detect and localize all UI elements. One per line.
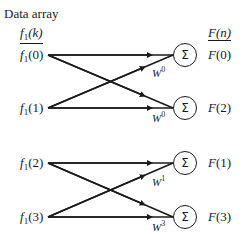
weight-base: W [152, 67, 161, 79]
output-base: F [208, 209, 216, 224]
weight-exp: 0 [161, 65, 165, 74]
output-arg: (2) [216, 100, 231, 115]
weight-label-3: W1 [152, 175, 165, 188]
output-base: F [208, 47, 216, 62]
output-F3: F(3) [208, 210, 231, 223]
butterfly-lines [0, 0, 242, 236]
sigma-icon: Σ [181, 101, 189, 115]
weight-exp: 0 [161, 110, 165, 119]
output-F2: F(2) [208, 101, 231, 114]
sum-node-F1: Σ [173, 151, 197, 175]
sigma-icon: Σ [181, 48, 189, 62]
weight-exp: 3 [161, 219, 165, 228]
output-base: F [208, 100, 216, 115]
output-F1: F(1) [208, 156, 231, 169]
weight-label-2: W0 [152, 111, 165, 124]
weight-label-1: W0 [152, 66, 165, 79]
weight-base: W [152, 112, 161, 124]
weight-label-4: W3 [152, 220, 165, 233]
output-F0: F(0) [208, 48, 231, 61]
sum-node-F2: Σ [173, 96, 197, 120]
output-arg: (1) [216, 155, 231, 170]
weight-base: W [152, 176, 161, 188]
weight-base: W [152, 221, 161, 233]
sum-node-F3: Σ [173, 205, 197, 229]
sigma-icon: Σ [181, 156, 189, 170]
weight-exp: 1 [161, 174, 165, 183]
sigma-icon: Σ [181, 210, 189, 224]
output-arg: (3) [216, 209, 231, 224]
output-base: F [208, 155, 216, 170]
output-arg: (0) [216, 47, 231, 62]
sum-node-F0: Σ [173, 43, 197, 67]
